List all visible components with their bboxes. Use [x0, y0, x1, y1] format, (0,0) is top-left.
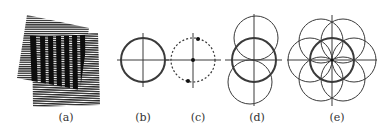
center-dot — [191, 58, 195, 62]
panel-a-moire — [17, 15, 100, 107]
center-dot — [330, 58, 333, 61]
top-dot — [196, 37, 200, 41]
caption-b: (b) — [135, 111, 151, 124]
caption-d: (d) — [249, 111, 265, 124]
panel-d-stacked-circles — [225, 14, 282, 106]
caption-a: (a) — [58, 111, 73, 124]
caption-e: (e) — [329, 111, 344, 124]
panel-b-circle — [117, 33, 169, 87]
bottom-dot — [186, 79, 190, 83]
panel-c-dashed-circle — [166, 33, 221, 88]
caption-c: (c) — [191, 111, 206, 124]
panel-e-flower — [287, 15, 377, 106]
